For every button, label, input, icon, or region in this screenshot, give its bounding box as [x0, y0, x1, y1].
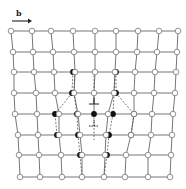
- burgers-vector-label: b: [16, 8, 22, 18]
- burgers-vector: [12, 19, 32, 24]
- crystal-lattice-diagram: [0, 0, 186, 189]
